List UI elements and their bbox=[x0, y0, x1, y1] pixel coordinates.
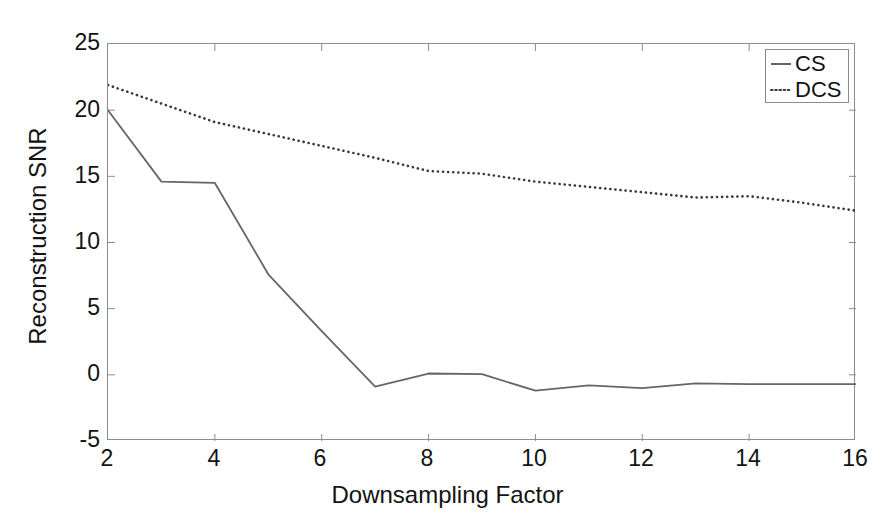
x-tick-label: 4 bbox=[184, 447, 244, 470]
y-tick-label: 5 bbox=[44, 296, 100, 319]
figure-canvas: 25 20 15 10 5 0 -5 2 4 6 8 10 12 14 16 D… bbox=[0, 0, 895, 520]
legend-label-dcs: DCS bbox=[795, 79, 841, 101]
y-axis-title: Reconstruction SNR bbox=[24, 106, 52, 366]
x-axis-title: Downsampling Factor bbox=[0, 481, 895, 509]
legend-box: CS DCS bbox=[765, 49, 849, 103]
x-tick-label: 16 bbox=[825, 447, 885, 470]
inner-tick-marks bbox=[108, 44, 856, 441]
y-tick-label: 20 bbox=[44, 98, 100, 121]
legend-label-cs: CS bbox=[795, 53, 826, 75]
data-series-layer bbox=[108, 85, 856, 391]
series-line-cs bbox=[108, 110, 856, 391]
y-tick-label: 0 bbox=[44, 362, 100, 385]
plot-svg bbox=[108, 44, 856, 441]
x-tick-label: 2 bbox=[77, 447, 137, 470]
y-tick-label: 25 bbox=[44, 31, 100, 54]
legend-entry-cs: CS bbox=[766, 50, 848, 77]
x-tick-label: 12 bbox=[611, 447, 671, 470]
x-axis-ticks: 2 4 6 8 10 12 14 16 bbox=[0, 447, 895, 479]
y-tick-label: 10 bbox=[44, 230, 100, 253]
x-tick-label: 10 bbox=[504, 447, 564, 470]
x-tick-label: 8 bbox=[397, 447, 457, 470]
y-tick-label: 15 bbox=[44, 164, 100, 187]
plot-area bbox=[107, 43, 855, 440]
solid-line-icon bbox=[770, 57, 792, 71]
x-tick-label: 14 bbox=[718, 447, 778, 470]
dotted-line-icon bbox=[770, 83, 792, 97]
x-tick-label: 6 bbox=[290, 447, 350, 470]
legend-entry-dcs: DCS bbox=[766, 76, 848, 103]
